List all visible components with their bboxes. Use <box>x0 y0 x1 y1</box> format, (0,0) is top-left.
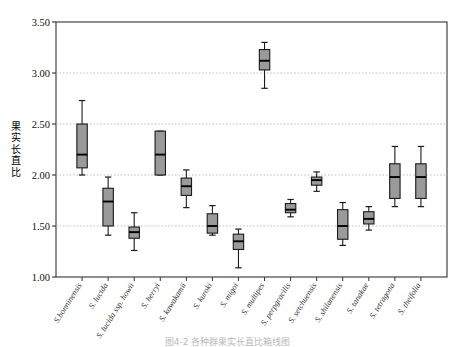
xtick-label-5: S. kuroki <box>191 281 214 311</box>
box-group-s--kuroki <box>207 206 217 236</box>
box-iqr <box>416 164 426 199</box>
y-axis-label-char: 比 <box>11 167 21 178</box>
ytick-label-1.00: 1.00 <box>32 272 50 283</box>
xtick-label-12: S. tetragona <box>368 281 397 320</box>
box-group-s-bonninensis <box>77 101 87 175</box>
ytick-label-2.50: 2.50 <box>32 119 50 130</box>
xtick-label-13: S. theifolia <box>396 281 422 316</box>
box-group-s--setchuensis <box>311 172 321 191</box>
y-axis-label-char: 长 <box>11 144 21 155</box>
box-iqr <box>77 124 87 168</box>
xtick-label-6: S. migoi <box>218 281 240 309</box>
ytick-label-3.00: 3.00 <box>32 68 50 79</box>
boxplot-svg: 1.001.502.002.503.003.50果实长直比S.bonninens… <box>0 0 455 347</box>
box-group-s--multipes <box>259 42 269 88</box>
ytick-label-3.50: 3.50 <box>32 17 50 28</box>
box-iqr <box>259 50 269 70</box>
y-axis-label-char: 直 <box>11 154 21 166</box>
box-iqr <box>155 131 165 175</box>
box-iqr <box>207 214 217 233</box>
xtick-label-11: S. tanakae <box>345 281 371 315</box>
box-iqr <box>311 177 321 185</box>
box-group-s--perpgracilis <box>285 199 295 216</box>
ytick-label-2.00: 2.00 <box>32 170 50 181</box>
xtick-label-4: S. kawakamii <box>157 281 188 323</box>
y-axis-label-char: 果 <box>11 121 21 132</box>
figure-caption: 图4-2 各种群果实长直比箱线图 <box>0 335 455 347</box>
box-group-s--tetragona <box>390 146 400 206</box>
xtick-label-10: S. shilanensis <box>313 281 344 324</box>
box-group-s--herryi <box>155 131 165 175</box>
y-axis-label-char: 实 <box>11 131 21 143</box>
box-iqr <box>390 164 400 199</box>
box-iqr <box>338 210 348 240</box>
xtick-label-1: S. lucida <box>87 281 110 310</box>
ytick-label-1.50: 1.50 <box>32 221 50 232</box>
boxplot-figure: 1.001.502.002.503.003.50果实长直比S.bonninens… <box>0 0 455 347</box>
xtick-label-3: S. herryi <box>139 281 162 310</box>
box-group-s--kawakamii <box>181 170 191 208</box>
box-iqr <box>103 188 113 226</box>
box-group-s--theifolia <box>416 146 426 206</box>
plot-frame <box>56 22 447 277</box>
y-axis-label: 果实长直比 <box>11 121 21 178</box>
box-group-s--tanakae <box>364 207 374 230</box>
box-iqr <box>285 204 295 213</box>
xtick-label-7: S. multipes <box>240 281 267 316</box>
xtick-label-0: S.bonninensis <box>52 281 84 324</box>
box-group-s--lucida-ssp--howii <box>129 213 139 251</box>
box-group-s--shilanensis <box>338 203 348 246</box>
box-group-s--lucida <box>103 177 113 235</box>
box-group-s--migoi <box>233 229 243 268</box>
box-iqr <box>364 212 374 224</box>
